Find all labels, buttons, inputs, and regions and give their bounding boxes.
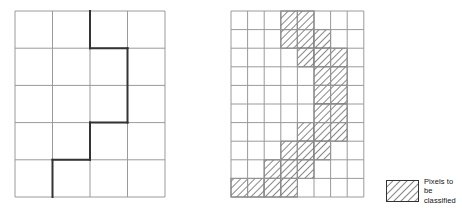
hatched-pixel: [297, 141, 314, 160]
pixel-classification-diagram: Pixels to be classified: [0, 0, 462, 215]
fine-grid-panel: [231, 11, 364, 197]
hatched-pixel: [297, 160, 314, 179]
hatched-pixel: [281, 11, 298, 30]
hatched-pixel: [331, 123, 348, 142]
fine-grid-svg: [231, 11, 364, 197]
hatched-pixel: [314, 104, 331, 123]
hatched-pixel: [248, 178, 265, 197]
hatched-pixel: [314, 85, 331, 104]
hatched-pixel: [281, 178, 298, 197]
hatched-pixel: [331, 104, 348, 123]
legend: Pixels to be classified: [386, 177, 462, 205]
hatched-pixel: [264, 160, 281, 179]
hatched-pixel: [281, 160, 298, 179]
coarse-grid-svg: [15, 11, 165, 197]
hatched-pixel: [314, 30, 331, 49]
hatched-pixel: [281, 30, 298, 49]
hatched-pixel: [314, 141, 331, 160]
hatched-pixel: [314, 48, 331, 67]
legend-label: Pixels to be classified: [424, 177, 462, 205]
hatched-pixel: [331, 85, 348, 104]
hatched-pixel: [314, 123, 331, 142]
hatched-pixel: [297, 123, 314, 142]
hatched-pixel: [264, 178, 281, 197]
hatched-pixel: [297, 30, 314, 49]
hatched-pixel: [231, 178, 248, 197]
hatched-pixel: [297, 48, 314, 67]
hatched-pixel: [297, 11, 314, 30]
hatched-swatch: [386, 180, 419, 202]
fine-grid-lines: [231, 11, 364, 197]
hatched-pixel: [281, 141, 298, 160]
hatched-pixel: [314, 67, 331, 86]
coarse-grid-panel: [15, 11, 165, 197]
hatched-pixel: [331, 48, 348, 67]
hatched-pixel: [331, 67, 348, 86]
